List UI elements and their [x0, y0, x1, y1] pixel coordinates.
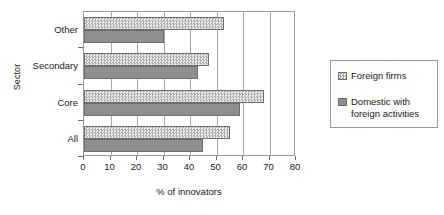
x-axis-tick-mark — [295, 156, 296, 160]
category-label-secondary: Secondary — [18, 60, 78, 71]
category-label-all: All — [18, 132, 78, 143]
x-axis-tick-label-30: 30 — [151, 161, 175, 172]
x-axis-tick-mark — [216, 156, 217, 160]
bar-secondary-series-1 — [84, 66, 198, 79]
y-axis-tick — [78, 156, 83, 157]
x-axis-tick-label-50: 50 — [204, 161, 228, 172]
x-axis-tick-label-60: 60 — [230, 161, 254, 172]
bar-chart: Sector OtherSecondaryCoreAll 01020304050… — [0, 0, 444, 215]
bar-core-series-0 — [84, 90, 264, 103]
category-label-other: Other — [18, 24, 78, 35]
plot-area — [83, 11, 295, 156]
x-axis-tick-label-40: 40 — [177, 161, 201, 172]
x-axis-ticks: 01020304050607080 — [83, 156, 295, 178]
category-label-core: Core — [18, 96, 78, 107]
x-axis-title: % of innovators — [83, 186, 295, 197]
x-axis-tick-mark — [110, 156, 111, 160]
solid-gray-swatch-icon — [338, 98, 347, 106]
x-axis-tick-mark — [136, 156, 137, 160]
x-axis-tick-label-0: 0 — [71, 161, 95, 172]
x-axis-tick-mark — [163, 156, 164, 160]
chart-legend: Foreign firmsDomestic with foreign activ… — [330, 60, 438, 128]
x-axis-tick-mark — [83, 156, 84, 160]
legend-label-0: Foreign firms — [351, 70, 406, 82]
x-axis-tick-label-10: 10 — [98, 161, 122, 172]
x-axis-tick-label-80: 80 — [283, 161, 307, 172]
bar-all-series-1 — [84, 139, 203, 152]
legend-entry-1: Domestic with foreign activities — [338, 96, 433, 119]
x-axis-tick-label-70: 70 — [257, 161, 281, 172]
bar-all-series-0 — [84, 126, 230, 139]
y-axis-tick — [78, 47, 83, 48]
gridline — [243, 12, 244, 155]
category-axis-labels: OtherSecondaryCoreAll — [18, 11, 78, 156]
bar-secondary-series-0 — [84, 53, 209, 66]
checkered-swatch-icon — [338, 72, 347, 80]
bar-other-series-1 — [84, 30, 164, 43]
x-axis-tick-mark — [269, 156, 270, 160]
y-axis-tick — [78, 84, 83, 85]
legend-label-1: Domestic with foreign activities — [351, 96, 433, 119]
x-axis-tick-mark — [189, 156, 190, 160]
y-axis-tick — [78, 120, 83, 121]
bar-other-series-0 — [84, 17, 224, 30]
x-axis-tick-mark — [242, 156, 243, 160]
gridline — [270, 12, 271, 155]
bar-core-series-1 — [84, 103, 240, 116]
x-axis-tick-label-20: 20 — [124, 161, 148, 172]
legend-entry-0: Foreign firms — [338, 70, 433, 82]
